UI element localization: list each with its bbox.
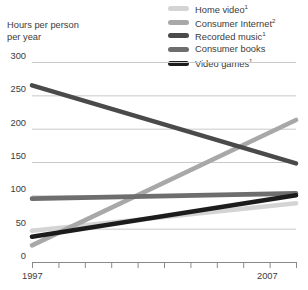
y-axis-tick-150: 150 xyxy=(0,152,26,161)
x-axis-tick-2007: 2007 xyxy=(257,272,278,281)
x-axis-tick-1997: 1997 xyxy=(22,272,43,281)
y-axis-tick-100: 100 xyxy=(0,185,26,194)
y-axis-tick-50: 50 xyxy=(0,219,26,228)
series-line-video-games xyxy=(32,195,296,236)
series-line-consumer-internet xyxy=(32,120,296,245)
y-axis-tick-300: 300 xyxy=(0,52,26,61)
series-line-consumer-books xyxy=(32,193,296,198)
y-axis-tick-0: 0 xyxy=(0,252,26,261)
y-axis-tick-250: 250 xyxy=(0,85,26,94)
y-axis-tick-200: 200 xyxy=(0,119,26,128)
series-line-recorded-music xyxy=(32,85,296,163)
plot-area xyxy=(0,0,308,290)
chart-container: Home video1 Consumer Internet2 Recorded … xyxy=(0,0,308,290)
